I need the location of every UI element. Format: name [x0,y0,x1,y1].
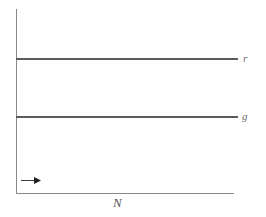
x-axis-label: N [113,196,122,209]
series-line-g [16,116,238,118]
series-label-r: r [243,53,247,64]
chart-figure: r g N [0,0,266,217]
rightward-arrow-icon [21,176,41,185]
series-label-g: g [242,111,248,122]
y-axis [16,9,17,194]
x-axis [16,193,234,194]
series-line-r [16,58,238,60]
